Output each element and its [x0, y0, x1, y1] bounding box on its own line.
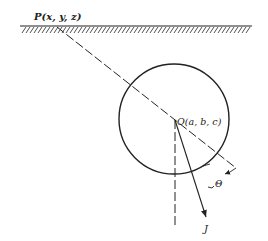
point-o-label: O(a, b, c) — [177, 116, 222, 127]
ground-surface — [20, 26, 252, 33]
diagram-canvas: P(x, y, z) O(a, b, c) Θ J — [0, 0, 268, 241]
vector-j-label: J — [202, 223, 209, 234]
line-p-to-o — [57, 27, 236, 168]
angle-theta-label: Θ — [215, 179, 223, 189]
point-p-label: P(x, y, z) — [33, 11, 82, 23]
vector-j-arrow — [175, 120, 206, 217]
